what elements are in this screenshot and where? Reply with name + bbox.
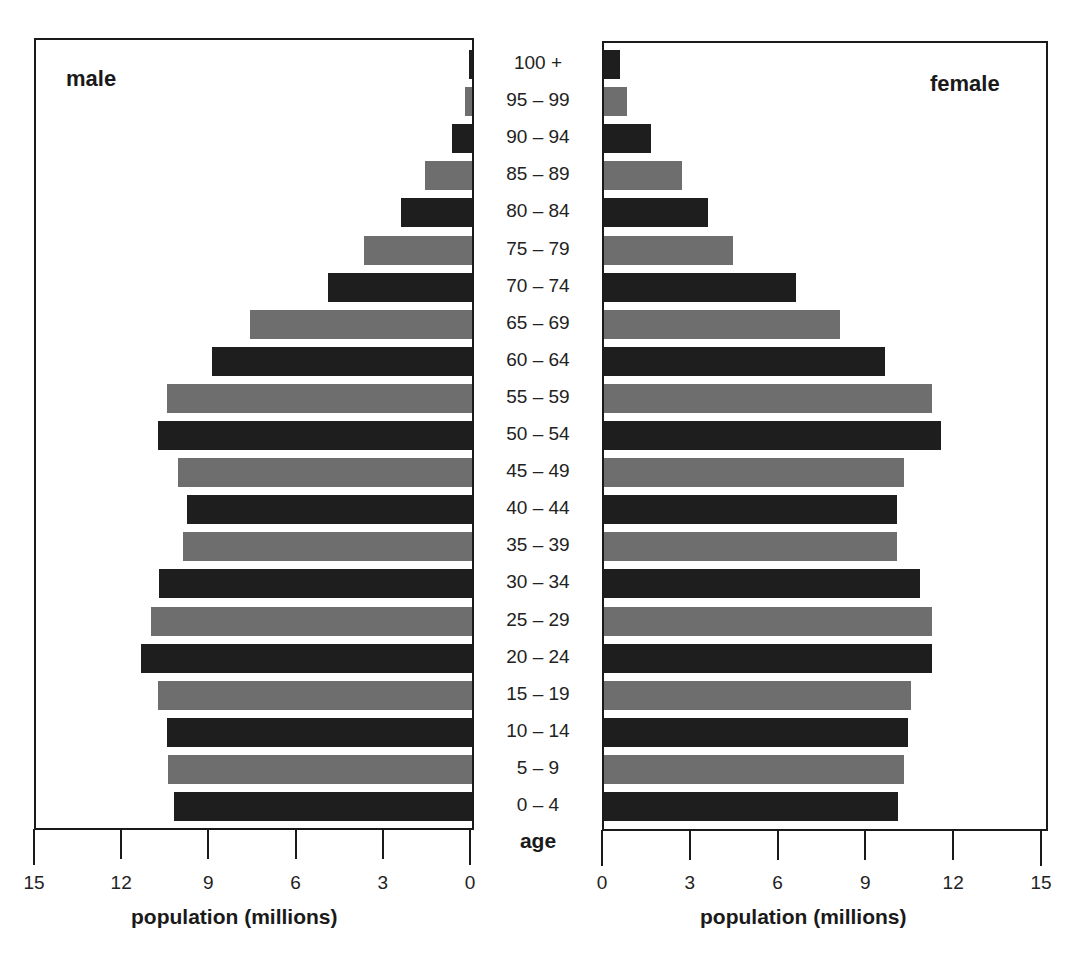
x-tick (382, 829, 384, 859)
x-tick-label: 3 (670, 872, 710, 894)
female-bar (604, 681, 911, 710)
x-axis-title-male: population (millions) (131, 905, 337, 929)
age-group-label: 30 – 34 (483, 571, 593, 593)
female-label: female (930, 71, 1000, 97)
age-group-label: 5 – 9 (483, 757, 593, 779)
female-bar (604, 532, 897, 561)
age-group-label: 15 – 19 (483, 683, 593, 705)
age-axis-title: age (483, 829, 593, 853)
age-group-label: 60 – 64 (483, 349, 593, 371)
male-bar (183, 532, 472, 561)
x-tick (689, 830, 691, 860)
male-label: male (66, 66, 116, 92)
male-bar (452, 124, 472, 153)
female-bar (604, 310, 840, 339)
x-tick-label: 0 (582, 872, 622, 894)
male-bar (187, 495, 472, 524)
x-tick-label: 6 (758, 872, 798, 894)
age-group-label: 65 – 69 (483, 312, 593, 334)
female-bar (604, 792, 898, 821)
x-tick-label: 12 (933, 872, 973, 894)
female-bar (604, 273, 796, 302)
male-bar (250, 310, 472, 339)
age-group-label: 75 – 79 (483, 238, 593, 260)
age-group-label: 10 – 14 (483, 720, 593, 742)
female-bar (604, 569, 920, 598)
male-bar (469, 50, 472, 79)
male-bar (178, 458, 472, 487)
male-bar (158, 421, 472, 450)
x-axis-title-female: population (millions) (700, 905, 906, 929)
male-bar (167, 718, 472, 747)
age-group-label: 45 – 49 (483, 460, 593, 482)
x-tick-label: 12 (101, 872, 141, 894)
x-tick-label: 15 (1021, 872, 1061, 894)
female-bar (604, 236, 733, 265)
male-bar (159, 569, 472, 598)
x-tick (601, 830, 603, 866)
x-tick-label: 0 (450, 872, 490, 894)
x-tick (207, 829, 209, 859)
x-tick-label: 6 (276, 872, 316, 894)
female-bar (604, 161, 682, 190)
female-bar (604, 50, 620, 79)
age-group-label: 20 – 24 (483, 646, 593, 668)
female-bar (604, 87, 627, 116)
age-group-label: 25 – 29 (483, 609, 593, 631)
female-bar (604, 124, 651, 153)
male-bar (212, 347, 472, 376)
age-group-label: 80 – 84 (483, 200, 593, 222)
age-group-label: 40 – 44 (483, 497, 593, 519)
age-group-label: 85 – 89 (483, 163, 593, 185)
age-group-label: 100 + (483, 52, 593, 74)
male-bar (401, 198, 472, 227)
female-bar (604, 421, 941, 450)
male-bar (167, 384, 472, 413)
age-group-label: 0 – 4 (483, 794, 593, 816)
female-bar (604, 347, 885, 376)
x-tick (952, 830, 954, 860)
x-tick-label: 3 (363, 872, 403, 894)
male-bar (174, 792, 472, 821)
age-group-label: 50 – 54 (483, 423, 593, 445)
age-group-label: 70 – 74 (483, 275, 593, 297)
female-bar (604, 495, 897, 524)
x-tick (1040, 830, 1042, 866)
age-group-label: 90 – 94 (483, 126, 593, 148)
female-bar (604, 384, 932, 413)
age-group-label: 35 – 39 (483, 534, 593, 556)
male-bar (141, 644, 472, 673)
age-group-label: 95 – 99 (483, 89, 593, 111)
x-tick-label: 15 (14, 872, 54, 894)
age-group-label: 55 – 59 (483, 386, 593, 408)
male-bar (158, 681, 472, 710)
x-tick (33, 829, 35, 865)
x-tick (120, 829, 122, 859)
x-tick (469, 829, 471, 865)
female-bar (604, 607, 932, 636)
x-tick-label: 9 (188, 872, 228, 894)
male-bar (168, 755, 472, 784)
female-bar (604, 458, 904, 487)
female-bar (604, 718, 908, 747)
male-bar (425, 161, 472, 190)
male-bar (328, 273, 472, 302)
male-bar (465, 87, 472, 116)
female-bar (604, 644, 932, 673)
female-bar (604, 755, 904, 784)
x-tick (777, 830, 779, 860)
x-tick-label: 9 (845, 872, 885, 894)
female-bar (604, 198, 708, 227)
male-bar (364, 236, 472, 265)
male-bar (151, 607, 472, 636)
x-tick (864, 830, 866, 860)
x-tick (295, 829, 297, 859)
